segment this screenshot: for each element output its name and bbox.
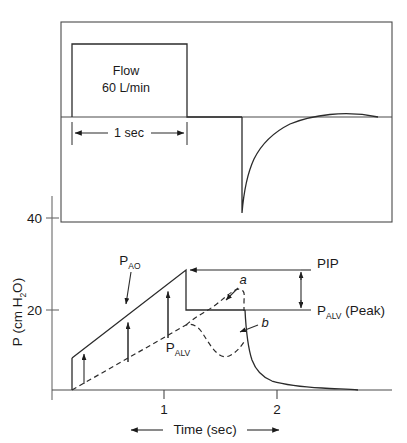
flow-panel-border [61, 22, 392, 222]
palv-label: PALV [166, 340, 191, 358]
palv-overshoot-a-curve [186, 289, 244, 325]
pressure-y-axis: 40 20 P (cm H2O) [10, 196, 59, 400]
ventilator-waveform-figure: Flow 60 L/min 1 sec 40 20 P (cm H2O) 1 2 [0, 0, 407, 443]
one-second-label: 1 sec [114, 126, 144, 140]
annotation-b-arrow [240, 325, 258, 332]
x-tick-label-1: 1 [160, 402, 168, 417]
flow-panel: Flow 60 L/min 1 sec [61, 22, 392, 222]
y-tick-label-40: 40 [27, 211, 42, 226]
annotation-b-label: b [261, 315, 268, 330]
pip-label: PIP [317, 256, 339, 271]
transairway-gradient-arrows [84, 291, 168, 384]
one-second-measure: 1 sec [72, 122, 187, 145]
pao-callout-arrow [126, 272, 131, 304]
annotation-a-arrow [226, 288, 238, 300]
y-tick-label-20: 20 [27, 303, 42, 318]
expiratory-flow-decay-curve [242, 114, 378, 213]
flow-label-line2: 60 L/min [102, 81, 150, 95]
x-tick-label-2: 2 [273, 402, 281, 417]
pao-ramp-and-plateau [72, 270, 245, 358]
y-axis-title-main: P (cm H [10, 298, 25, 347]
figure-canvas: Flow 60 L/min 1 sec 40 20 P (cm H2O) 1 2 [0, 0, 407, 443]
pao-label: PAO [119, 253, 141, 271]
flow-label-line1: Flow [113, 64, 140, 78]
y-axis-title: P (cm H2O) [10, 278, 28, 346]
annotation-a-group: a [226, 272, 247, 300]
annotation-b-group: b [240, 315, 269, 332]
x-axis-title: Time (sec) [173, 422, 236, 437]
annotation-a-label: a [239, 272, 246, 287]
svg-text:P (cm H2O): P (cm H2O) [10, 278, 28, 346]
inspiratory-flow-square-wave [72, 44, 242, 117]
pressure-panel: 1 2 Time (sec) PAO [52, 253, 392, 437]
x-axis-title-group: Time (sec) [131, 422, 279, 437]
y-axis-title-end: O) [10, 278, 25, 293]
palv-peak-label: PALV (Peak) [317, 303, 385, 321]
pao-callout: PAO [119, 253, 141, 304]
palv-dashed-curve [72, 324, 244, 390]
